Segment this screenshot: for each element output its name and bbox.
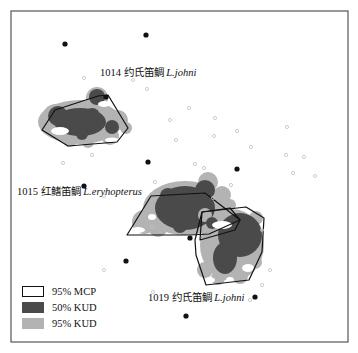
fish-cn-name: 约氏笛鲷 [172, 292, 212, 303]
fish-cn-name: 约氏笛鲷 [124, 67, 164, 78]
fish-number: 1015 [17, 186, 38, 197]
legend-label: 95% KUD [52, 318, 97, 329]
map-legend: 95% MCP 50% KUD 95% KUD [22, 283, 97, 331]
label-fish-1019: 1019 约氏笛鲷 L.johni [148, 292, 244, 304]
fish-latin-name: L.eryhopterus [83, 186, 142, 197]
legend-item-kud50: 50% KUD [22, 299, 97, 315]
legend-label: 95% MCP [52, 286, 96, 297]
fish-number: 1014 [100, 67, 121, 78]
kud95-swatch [22, 318, 44, 329]
legend-item-mcp: 95% MCP [22, 283, 97, 299]
legend-item-kud95: 95% KUD [22, 315, 97, 331]
fish-latin-name: L.johni [214, 292, 244, 303]
fish-latin-name: L.johni [166, 67, 196, 78]
mcp-swatch [22, 286, 44, 297]
fish-number: 1019 [148, 292, 169, 303]
label-fish-1014: 1014 约氏笛鲷 L.johni [100, 67, 196, 79]
fish-cn-name: 红鳍笛鲷 [41, 186, 81, 197]
kud50-swatch [22, 302, 44, 313]
legend-label: 50% KUD [52, 302, 97, 313]
label-fish-1015: 1015 红鳍笛鲷 L.eryhopterus [17, 186, 142, 198]
